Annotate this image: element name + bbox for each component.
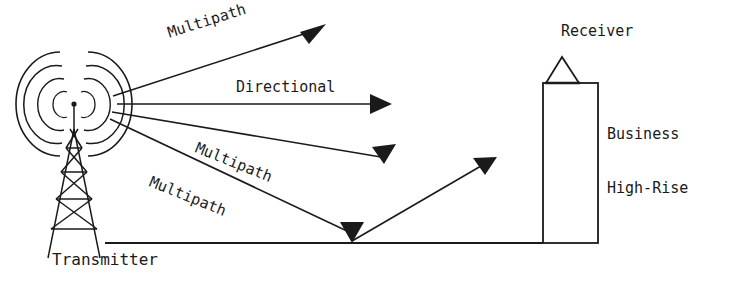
tower-xbrace-2b — [61, 148, 82, 172]
building-label-line2: High-Rise — [607, 179, 688, 197]
building-body — [543, 83, 598, 243]
arrowhead-directional — [370, 94, 392, 114]
radiation-arc-2 — [38, 79, 64, 131]
radiation-arc-3 — [24, 66, 62, 144]
building-label-line1: Business — [607, 125, 688, 143]
radiation-arc-2b — [84, 79, 110, 131]
arrowhead-ground-strike — [340, 222, 364, 243]
transmitter-label: Transmitter — [52, 250, 158, 270]
rf-propagation-diagram: Transmitter Receiver Business High-Rise … — [0, 0, 732, 287]
radiation-arc-1b — [81, 92, 95, 118]
arrowhead-ground-reflection — [473, 157, 497, 175]
directional-ray-label: Directional — [236, 78, 335, 96]
tower-structure — [48, 104, 100, 258]
ray-ground-reflection — [352, 166, 481, 241]
receiver-antenna-icon — [546, 57, 579, 83]
tower-xbrace-3b — [56, 172, 87, 199]
ray-multipath-middle — [112, 112, 381, 157]
tower-xbrace-3a — [61, 172, 92, 199]
arrowhead-multipath-upper — [300, 24, 326, 44]
arrowhead-multipath-middle — [372, 144, 396, 164]
tower-xbrace-2a — [66, 148, 87, 172]
ray-multipath-ground — [110, 119, 347, 231]
building-label: Business High-Rise — [607, 88, 688, 234]
radiation-arc-1 — [53, 92, 67, 118]
receiver-label: Receiver — [561, 22, 633, 40]
